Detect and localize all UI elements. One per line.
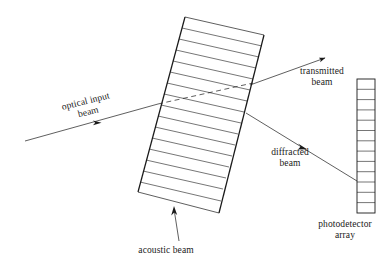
- label-transmitted-beam-line2: beam: [285, 77, 359, 88]
- label-transmitted-beam: transmitted beam: [285, 66, 359, 88]
- cell-top-edge: [185, 17, 264, 35]
- acousto-optic-cell: [138, 17, 264, 213]
- photodetector-array-body[interactable]: [357, 79, 375, 213]
- undiffracted-dashed-ray: [158, 83, 253, 104]
- label-diffracted-beam: diffracted beam: [256, 147, 324, 169]
- cell-left-edge: [138, 17, 185, 192]
- acoustic-beam-pointer-arrowhead: [171, 206, 177, 216]
- cell-bottom-edge: [138, 192, 219, 213]
- acoustic-beam-pointer: [171, 206, 179, 241]
- label-photodetector-array-line1: photodetector: [303, 219, 387, 230]
- cell-right-edge: [219, 35, 264, 213]
- label-photodetector-array-line2: array: [303, 230, 387, 241]
- photodetector-array[interactable]: [357, 79, 375, 213]
- label-acoustic-beam-text: acoustic beam: [128, 245, 204, 256]
- label-diffracted-beam-line2: beam: [256, 158, 324, 169]
- label-diffracted-beam-line1: diffracted: [256, 147, 324, 158]
- label-photodetector-array: photodetector array: [303, 219, 387, 241]
- label-acoustic-beam: acoustic beam: [128, 245, 204, 256]
- label-transmitted-beam-line1: transmitted: [285, 66, 359, 77]
- diagram-canvas: optical input beam transmitted beam diff…: [0, 0, 391, 266]
